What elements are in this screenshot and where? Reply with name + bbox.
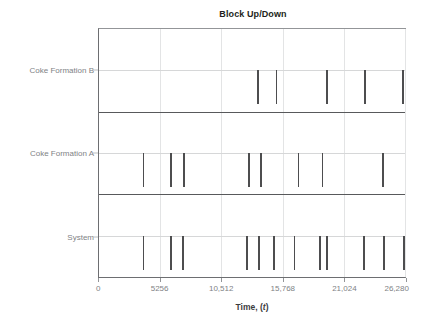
x-tick-mark-5256 xyxy=(160,278,161,282)
event-mark xyxy=(402,70,404,104)
event-mark xyxy=(298,153,300,187)
chart-figure: Block Up/Down Coke Formation B Coke Form… xyxy=(0,0,434,326)
x-axis-title-prefix: Time, ( xyxy=(236,302,263,312)
event-mark xyxy=(258,236,260,270)
x-tick-mark-0 xyxy=(98,278,99,282)
event-mark xyxy=(294,236,296,270)
x-tick-label-10512: 10,512 xyxy=(209,284,233,293)
y-axis-label-coke-formation-a: Coke Formation A xyxy=(30,149,94,158)
event-mark xyxy=(322,153,324,187)
event-mark xyxy=(246,236,248,270)
y-axis-label-coke-formation-b: Coke Formation B xyxy=(30,65,94,74)
event-mark xyxy=(382,153,384,187)
gridline-26280 xyxy=(405,29,406,277)
event-mark xyxy=(326,70,328,104)
y-axis-label-system: System xyxy=(67,232,94,241)
panel-coke-formation-b xyxy=(99,29,405,112)
event-mark xyxy=(319,236,321,270)
x-tick-label-5256: 5256 xyxy=(151,284,169,293)
x-tick-mark-15768 xyxy=(283,278,284,282)
event-mark xyxy=(403,236,405,270)
event-mark xyxy=(276,70,278,104)
event-mark xyxy=(183,153,185,187)
x-tick-label-26280: 26,280 xyxy=(384,284,408,293)
event-mark xyxy=(143,153,145,187)
chart-title: Block Up/Down xyxy=(98,9,408,19)
event-mark xyxy=(170,236,172,270)
x-tick-mark-21024 xyxy=(344,278,345,282)
event-mark xyxy=(260,153,262,187)
x-tick-label-21024: 21,024 xyxy=(332,284,356,293)
event-mark xyxy=(383,236,385,270)
baseline-coke-formation-b xyxy=(99,70,405,71)
event-mark xyxy=(248,153,250,187)
x-axis-title: Time, (t) xyxy=(98,302,406,312)
baseline-coke-formation-a xyxy=(99,153,405,154)
panel-coke-formation-a xyxy=(99,112,405,195)
x-tick-label-0: 0 xyxy=(96,284,100,293)
event-mark xyxy=(182,236,184,270)
baseline-system xyxy=(99,236,405,237)
x-tick-mark-26280 xyxy=(406,278,407,282)
event-mark xyxy=(273,236,275,270)
x-tick-mark-10512 xyxy=(221,278,222,282)
panel-system xyxy=(99,194,405,277)
event-mark xyxy=(257,70,259,104)
event-mark xyxy=(363,236,365,270)
plot-area xyxy=(98,28,406,278)
x-axis-title-suffix: ) xyxy=(266,302,269,312)
event-mark xyxy=(326,236,328,270)
event-mark xyxy=(364,70,366,104)
event-mark xyxy=(143,236,145,270)
x-tick-label-15768: 15,768 xyxy=(271,284,295,293)
event-mark xyxy=(170,153,172,187)
